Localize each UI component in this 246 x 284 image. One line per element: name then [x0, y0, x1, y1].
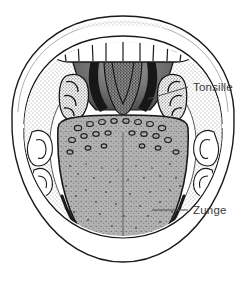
left-tonsil [59, 75, 88, 122]
label-zunge: Zunge [193, 204, 227, 216]
right-tonsil [157, 75, 186, 122]
oral-cavity-illustration: Tonsille Zunge [0, 0, 246, 284]
anatomy-drawing: Tonsille Zunge [0, 0, 246, 284]
label-tonsille: Tonsille [193, 81, 233, 93]
